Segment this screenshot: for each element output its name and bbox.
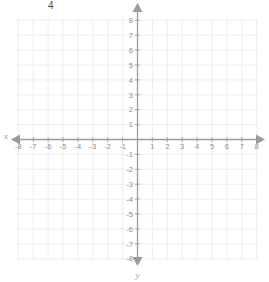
y-axis-tick-label: -8 bbox=[126, 254, 133, 263]
y-axis-tick-label: 6 bbox=[129, 46, 133, 55]
y-axis-tick-label: 5 bbox=[129, 61, 133, 70]
x-axis-tick-label: 2 bbox=[165, 142, 169, 151]
coordinate-plane-figure: -8-7-6-5-4-3-2-112345678 87654321-1-2-3-… bbox=[0, 0, 269, 282]
y-axis-tick-label: 3 bbox=[129, 91, 133, 100]
x-axis-tick-label: 1 bbox=[150, 142, 154, 151]
x-axis-tick-label: 4 bbox=[195, 142, 199, 151]
y-axis-tick-label: 4 bbox=[129, 76, 133, 85]
x-axis-tick-label: 5 bbox=[210, 142, 214, 151]
y-axis-tick-label: 2 bbox=[129, 105, 133, 114]
x-axis-tick-label: -7 bbox=[30, 142, 37, 151]
y-axis-tick-label: -6 bbox=[126, 225, 133, 234]
x-axis-tick-label: 8 bbox=[255, 142, 259, 151]
x-axis-tick-label: -3 bbox=[89, 142, 96, 151]
y-axis-tick-label: 1 bbox=[129, 120, 133, 129]
x-axis-tick-label: 7 bbox=[240, 142, 244, 151]
coordinate-plane-svg: -8-7-6-5-4-3-2-112345678 87654321-1-2-3-… bbox=[0, 0, 269, 282]
x-axis-tick-label: -1 bbox=[119, 142, 126, 151]
y-axis-tick-label: -1 bbox=[126, 150, 133, 159]
x-axis-tick-label: 3 bbox=[180, 142, 184, 151]
y-axis-tick-label: -5 bbox=[126, 210, 133, 219]
y-axis-name-label: y bbox=[135, 270, 140, 280]
x-axis-tick-label: -4 bbox=[75, 142, 82, 151]
y-axis-top-arrowhead bbox=[133, 3, 143, 12]
x-axis-tick-label: -8 bbox=[15, 142, 22, 151]
y-axis-tick-label: -2 bbox=[126, 165, 133, 174]
stray-numeral-four: 4 bbox=[48, 1, 54, 11]
y-axis-tick-label: -4 bbox=[126, 195, 133, 204]
x-axis-tick-label: -2 bbox=[104, 142, 111, 151]
x-axis-tick-label: -5 bbox=[60, 142, 67, 151]
x-axis-tick-label: 6 bbox=[225, 142, 229, 151]
y-axis-tick-label: -7 bbox=[126, 240, 133, 249]
y-axis-tick-label: 7 bbox=[129, 31, 133, 40]
y-axis-tick-label: 8 bbox=[129, 16, 133, 25]
x-axis-tick-label: -6 bbox=[45, 142, 52, 151]
y-axis-tick-label: -3 bbox=[126, 180, 133, 189]
x-axis-name-label: x bbox=[3, 131, 8, 141]
